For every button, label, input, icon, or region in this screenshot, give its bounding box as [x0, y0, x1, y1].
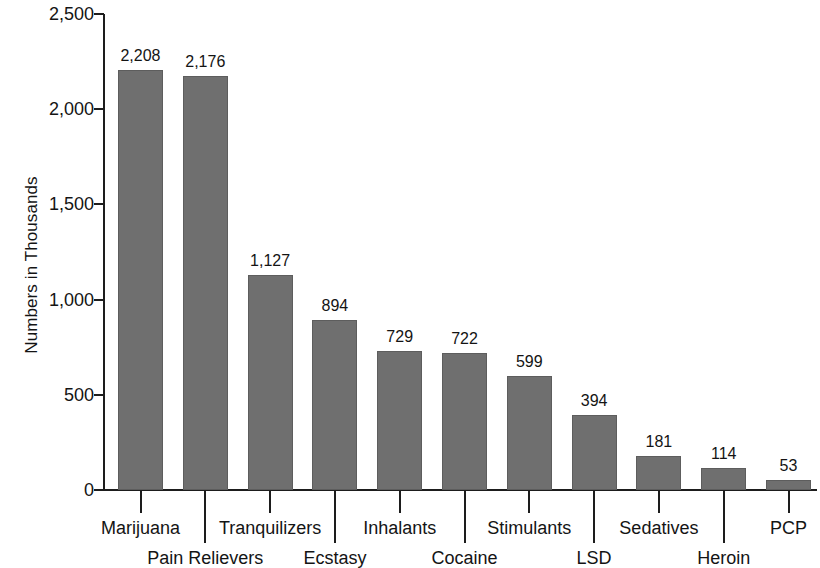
x-category-label: Stimulants [454, 519, 604, 537]
x-tick-mark [658, 491, 660, 513]
x-tick-mark [788, 491, 790, 513]
bar-value-label: 894 [290, 298, 380, 314]
x-category-label: LSD [519, 549, 669, 567]
bar [118, 70, 163, 490]
bar-value-label: 394 [549, 393, 639, 409]
x-category-label: Ecstasy [260, 549, 410, 567]
bar-value-label: 2,176 [160, 54, 250, 70]
x-category-label: Inhalants [325, 519, 475, 537]
bar [312, 320, 357, 490]
x-category-label: Cocaine [390, 549, 540, 567]
x-tick-mark [528, 491, 530, 513]
x-category-label: Heroin [649, 549, 799, 567]
bar-value-label: 599 [484, 354, 574, 370]
x-category-label: Pain Relievers [130, 549, 280, 567]
x-category-label: Tranquilizers [195, 519, 345, 537]
x-tick-mark [269, 491, 271, 513]
bar [636, 456, 681, 490]
x-tick-mark [399, 491, 401, 513]
bar [766, 480, 811, 490]
bar [572, 415, 617, 490]
x-tick-mark [140, 491, 142, 513]
bar [183, 76, 228, 490]
x-category-label: Marijuana [66, 519, 216, 537]
x-category-label: PCP [714, 519, 820, 537]
bar-value-label: 53 [744, 458, 820, 474]
bar [442, 353, 487, 490]
x-category-label: Sedatives [584, 519, 734, 537]
bar-value-label: 722 [420, 331, 510, 347]
bar [507, 376, 552, 490]
bar [248, 275, 293, 490]
bar [701, 468, 746, 490]
bar-value-label: 1,127 [225, 253, 315, 269]
bar [377, 351, 422, 490]
